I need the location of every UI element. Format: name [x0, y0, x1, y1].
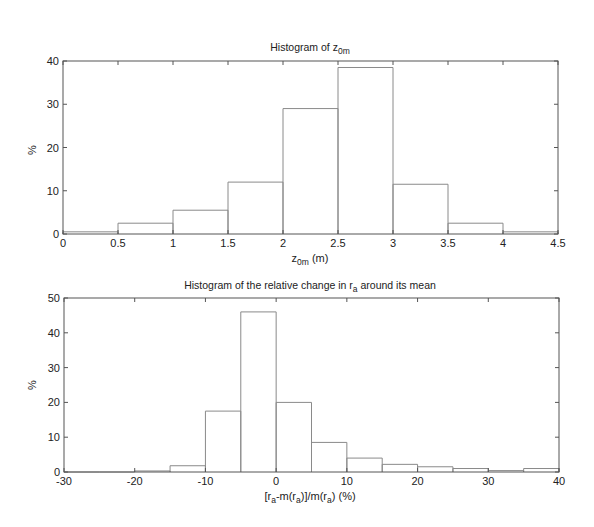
y-tick-label: 30: [48, 362, 60, 374]
histogram-bars: [63, 67, 558, 234]
x-tick-label: 3: [390, 237, 396, 249]
x-tick-label: -20: [127, 475, 143, 487]
y-axis-label: %: [26, 145, 38, 155]
x-axis-label: [ra-m(ra)]/m(ra) (%): [264, 490, 355, 505]
y-tick-label: 10: [47, 185, 59, 197]
x-tick-label: 4.5: [550, 237, 565, 249]
y-tick-label: 50: [48, 292, 60, 304]
x-tick-label: 20: [411, 475, 423, 487]
y-tick-label: 20: [47, 142, 59, 154]
chart-title: Histogram of the relative change in ra a…: [184, 279, 436, 294]
histogram-z0m: Histogram of z0m 00.511.522.533.544.5010…: [26, 41, 566, 267]
x-tick-label: -10: [197, 475, 213, 487]
y-tick-label: 20: [48, 396, 60, 408]
histogram-bars: [64, 312, 559, 472]
y-tick-label: 40: [48, 327, 60, 339]
x-tick-label: 30: [482, 475, 494, 487]
figure: Histogram of z0m 00.511.522.533.544.5010…: [0, 0, 594, 527]
x-axis-label: z0m (m): [292, 252, 329, 267]
y-tick-label: 30: [47, 98, 59, 110]
x-tick-label: 40: [553, 475, 565, 487]
x-tick-label: 0: [273, 475, 279, 487]
x-tick-label: 0.5: [110, 237, 125, 249]
x-tick-label: 1.5: [220, 237, 235, 249]
chart-title: Histogram of z0m: [270, 41, 350, 56]
x-tick-label: 2.5: [330, 237, 345, 249]
x-tick-label: 10: [341, 475, 353, 487]
x-tick-label: 4: [500, 237, 506, 249]
x-tick-label: 0: [60, 237, 66, 249]
y-tick-label: 0: [53, 228, 59, 240]
plot-area: 00.511.522.533.544.5010203040: [47, 55, 566, 249]
y-tick-label: 0: [54, 466, 60, 478]
x-tick-label: 2: [280, 237, 286, 249]
x-tick-label: 3.5: [440, 237, 455, 249]
histogram-relative-change-ra: Histogram of the relative change in ra a…: [26, 279, 565, 505]
y-tick-label: 10: [48, 431, 60, 443]
plot-area: -30-20-1001020304001020304050: [48, 292, 565, 487]
y-axis-label: %: [26, 380, 38, 390]
y-tick-label: 40: [47, 55, 59, 67]
x-tick-label: 1: [170, 237, 176, 249]
axes-box: [63, 61, 558, 234]
